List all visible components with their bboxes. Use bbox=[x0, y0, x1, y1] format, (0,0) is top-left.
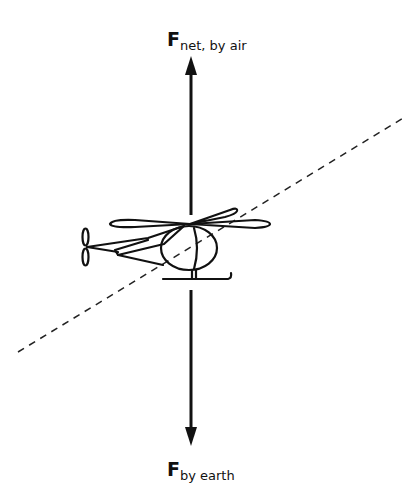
helicopter-icon bbox=[83, 209, 271, 279]
force-label-net-by-air: Fnet, by air bbox=[167, 28, 247, 50]
force-symbol: F bbox=[167, 28, 180, 50]
diagram-drawing bbox=[0, 0, 413, 503]
force-symbol: F bbox=[167, 458, 180, 480]
downward-force-arrow bbox=[185, 290, 197, 446]
force-subscript: by earth bbox=[180, 468, 235, 483]
force-label-by-earth: Fby earth bbox=[167, 458, 235, 480]
upward-force-arrow bbox=[185, 56, 197, 215]
diagram-canvas: Fnet, by air Fby earth bbox=[0, 0, 413, 503]
force-subscript: net, by air bbox=[180, 38, 247, 53]
